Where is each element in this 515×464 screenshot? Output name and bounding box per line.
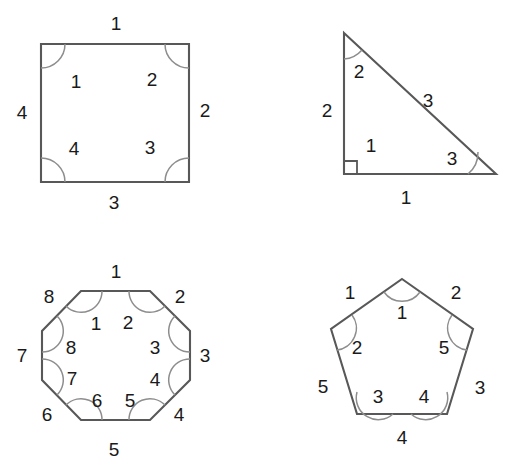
pentagon-angle-label-5: 5 [439, 338, 450, 357]
octagon-side-label-7: 7 [17, 346, 28, 365]
square-figure [41, 44, 189, 182]
octagon-figure [42, 291, 190, 420]
square-angle-label-3: 3 [145, 138, 156, 157]
pentagon-angle-label-2: 2 [352, 338, 363, 357]
octagon-side-label-8: 8 [44, 287, 55, 306]
diagram-canvas: 1 2 3 4 1 2 3 4 1 2 3 1 2 3 1 2 3 4 5 6 … [0, 0, 515, 464]
pentagon-side-label-4: 4 [397, 428, 408, 447]
octagon-side-label-4: 4 [174, 405, 185, 424]
square-angle-arc-3 [165, 158, 189, 182]
octagon-angle-label-8: 8 [66, 338, 77, 357]
octagon-angle-label-2: 2 [123, 313, 134, 332]
pentagon-angle-label-4: 4 [419, 387, 430, 406]
octagon-angle-label-6: 6 [92, 391, 103, 410]
octagon-outline [42, 291, 190, 420]
triangle-angle-label-3: 3 [447, 149, 458, 168]
octagon-angle-label-4: 4 [150, 370, 161, 389]
square-outline [41, 44, 189, 182]
octagon-angle-label-5: 5 [125, 391, 136, 410]
pentagon-angle-arc-5 [448, 315, 467, 350]
triangle-angle-arc-2-apex [344, 50, 362, 59]
square-side-label-4: 4 [17, 103, 28, 122]
octagon-side-label-5: 5 [109, 440, 120, 459]
triangle-side-label-2: 2 [322, 101, 333, 120]
square-angle-arc-4 [41, 158, 65, 182]
octagon-side-label-2: 2 [175, 287, 186, 306]
square-side-label-2: 2 [200, 101, 211, 120]
square-angle-arc-2 [165, 44, 189, 68]
square-angle-arc-1 [41, 44, 65, 68]
triangle-angle-label-2: 2 [354, 62, 365, 81]
triangle-angle-label-1: 1 [366, 136, 377, 155]
square-side-label-1: 1 [111, 14, 122, 33]
octagon-side-label-1: 1 [111, 262, 122, 281]
triangle-right-angle-icon [344, 161, 357, 174]
square-angle-label-4: 4 [69, 139, 80, 158]
octagon-angle-label-3: 3 [150, 338, 161, 357]
pentagon-angle-label-3: 3 [373, 387, 384, 406]
square-angle-label-1: 1 [71, 72, 82, 91]
pentagon-side-label-5: 5 [318, 377, 329, 396]
square-angle-label-2: 2 [147, 70, 158, 89]
triangle-side-label-3: 3 [423, 91, 434, 110]
pentagon-angle-label-1: 1 [397, 303, 408, 322]
octagon-angle-label-1: 1 [91, 314, 102, 333]
pentagon-side-label-3: 3 [475, 378, 486, 397]
octagon-side-label-6: 6 [42, 405, 53, 424]
octagon-side-label-3: 3 [200, 346, 211, 365]
triangle-side-label-1: 1 [401, 188, 412, 207]
pentagon-angle-arc-1 [384, 292, 420, 301]
pentagon-side-label-2: 2 [451, 283, 462, 302]
octagon-angle-label-7: 7 [67, 369, 78, 388]
square-side-label-3: 3 [109, 193, 120, 212]
pentagon-side-label-1: 1 [345, 283, 356, 302]
